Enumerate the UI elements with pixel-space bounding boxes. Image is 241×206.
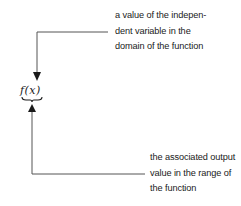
- output-annotation-line: the associated output: [150, 150, 235, 166]
- input-annotation-line: domain of the function: [115, 39, 206, 55]
- output-connector-line: [32, 110, 145, 174]
- input-annotation-line: dent variable in the: [115, 24, 206, 40]
- input-annotation-line: a value of the indepen-: [115, 8, 206, 24]
- input-annotation: a value of the indepen- dent variable in…: [115, 8, 206, 55]
- function-expression: f(x): [20, 84, 41, 97]
- output-arrowhead-icon: [28, 104, 36, 112]
- input-arrowhead-icon: [33, 72, 41, 81]
- input-connector-line: [37, 32, 108, 74]
- output-annotation-line: the function: [150, 181, 235, 197]
- output-annotation: the associated output value in the range…: [150, 150, 235, 197]
- underbrace-icon: [22, 97, 42, 102]
- output-annotation-line: value in the range of: [150, 166, 235, 182]
